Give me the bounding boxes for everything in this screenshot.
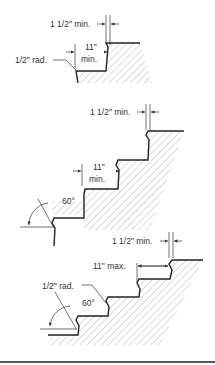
radius-label: 1/2" rad. [15, 55, 47, 65]
nosing-projection-label: 1 1/2" min. [112, 236, 152, 246]
hatch-area [50, 260, 203, 345]
tread-depth-label-1: 11" [85, 42, 97, 52]
angle-label: 60° [82, 298, 95, 308]
radius-label: 1/2" rad. [42, 281, 74, 291]
angle-label: 60° [62, 196, 75, 206]
figure-top: 1 1/2" min. 11" min. 1/2" rad. [15, 15, 152, 83]
nosing-projection-label: 1 1/2" min. [90, 107, 130, 117]
tread-depth-label: 11" max. [93, 261, 126, 271]
tread-depth-label-1: 11" [93, 162, 105, 172]
figure-middle: 1 1/2" min. 11" min. 60° [20, 104, 184, 246]
tread-depth-label-2: min. [89, 174, 105, 184]
figure-bottom: 1 1/2" min. 11" max. 1/2" rad. 60° [40, 232, 203, 345]
stair-diagram: 1 1/2" min. 11" min. 1/2" rad. 1 1/2" mi… [0, 0, 215, 365]
nosing-projection-label: 1 1/2" min. [50, 19, 90, 29]
tread-depth-label-2: min. [81, 54, 97, 64]
